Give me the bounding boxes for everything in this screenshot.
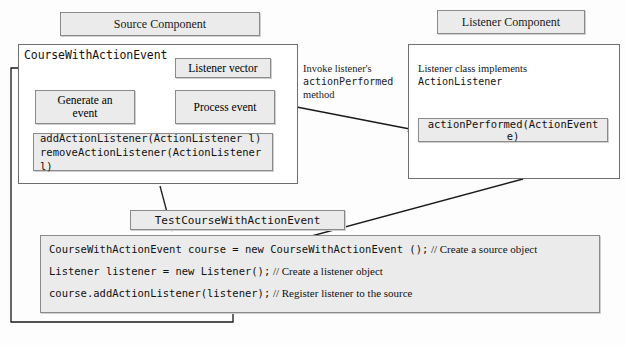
code-comment: // Create a source object bbox=[431, 243, 537, 255]
invoke-listener-note: Invoke listener's actionPerformed method bbox=[303, 62, 398, 101]
code-statement: course.addActionListener(listener); bbox=[49, 287, 270, 299]
code-line: CourseWithActionEvent course = new Cours… bbox=[49, 243, 599, 256]
remove-action-listener-signature: removeActionListener(ActionListener l) bbox=[40, 146, 261, 172]
listener-component-header: Listener Component bbox=[437, 10, 585, 34]
source-component-header: Source Component bbox=[60, 12, 260, 36]
test-class-caption: TestCourseWithActionEvent bbox=[130, 210, 345, 230]
add-action-listener-signature: addActionListener(ActionListener l) bbox=[40, 132, 261, 144]
code-line: course.addActionListener(listener); // R… bbox=[49, 287, 599, 300]
invoke-note-method-name: actionPerformed bbox=[303, 76, 393, 87]
invoke-note-line1: Invoke listener's bbox=[303, 63, 372, 74]
implements-line1: Listener class implements bbox=[418, 63, 527, 74]
code-comment: // Register listener to the source bbox=[273, 287, 413, 299]
code-statement: Listener listener = new Listener(); bbox=[49, 265, 270, 277]
diagram-canvas: Source Component Listener Component Cour… bbox=[0, 0, 626, 345]
code-comment: // Create a listener object bbox=[273, 265, 383, 277]
listener-class-implements-label: Listener class implements ActionListener bbox=[418, 62, 608, 88]
source-class-label: CourseWithActionEvent bbox=[24, 48, 167, 62]
test-code-block: CourseWithActionEvent course = new Cours… bbox=[40, 235, 600, 313]
generate-event-box: Generate an event bbox=[35, 90, 135, 124]
generate-event-line2: event bbox=[73, 107, 98, 119]
generate-event-line1: Generate an bbox=[57, 94, 112, 106]
listener-methods-box: addActionListener(ActionListener l) remo… bbox=[33, 133, 273, 171]
code-line: Listener listener = new Listener(); // C… bbox=[49, 265, 599, 278]
implements-interface-name: ActionListener bbox=[418, 76, 502, 87]
invoke-note-line3: method bbox=[303, 89, 335, 100]
process-event-box: Process event bbox=[175, 90, 275, 124]
code-statement: CourseWithActionEvent course = new Cours… bbox=[49, 243, 428, 255]
listener-vector-box: Listener vector bbox=[175, 58, 271, 78]
action-performed-method-box: actionPerformed(ActionEvent e) bbox=[418, 118, 608, 142]
